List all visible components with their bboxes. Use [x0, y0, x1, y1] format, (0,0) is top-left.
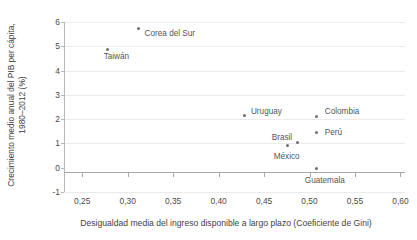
x-tick-mark [82, 173, 83, 177]
y-tick-label: 4 [44, 66, 60, 76]
x-tick-label: 0,30 [108, 196, 148, 206]
data-point-label: México [274, 152, 300, 161]
gridline-y [64, 22, 405, 23]
gridline-y [64, 95, 405, 96]
x-tick-mark [310, 173, 311, 177]
y-tick-mark [61, 143, 64, 144]
y-tick-label: 1 [44, 138, 60, 148]
data-point[interactable] [106, 48, 109, 51]
data-point[interactable] [315, 167, 318, 170]
x-tick-label: 0,60 [380, 196, 417, 206]
x-tick-label: 0,45 [244, 196, 284, 206]
x-tick-label: 0,40 [199, 196, 239, 206]
data-point[interactable] [296, 141, 299, 144]
data-point[interactable] [315, 115, 318, 118]
x-tick-mark [355, 173, 356, 177]
x-tick-label: 0,35 [153, 196, 193, 206]
y-tick-mark [61, 192, 64, 193]
data-point-label: Uruguay [251, 107, 282, 116]
x-tick-label: 0,50 [290, 196, 330, 206]
gridline-y [64, 71, 405, 72]
y-tick-mark [61, 46, 64, 47]
x-tick-mark [128, 173, 129, 177]
data-point-label: Corea del Sur [145, 29, 196, 38]
data-point-label: Perú [325, 128, 342, 137]
x-axis-line [64, 172, 405, 173]
scatter-chart: Crecimiento medio anual del PIB per cápi… [0, 0, 417, 240]
x-tick-mark [264, 173, 265, 177]
x-tick-mark [173, 173, 174, 177]
gridline-y [64, 119, 405, 120]
data-point-label: Brasil [272, 133, 292, 142]
data-point[interactable] [286, 144, 289, 147]
gridline-y [64, 46, 405, 47]
data-point[interactable] [137, 27, 140, 30]
data-point-label: Guatemala [305, 176, 345, 185]
data-point[interactable] [243, 114, 246, 117]
y-axis-line [64, 22, 65, 192]
y-tick-label: 6 [44, 17, 60, 27]
y-tick-mark [61, 119, 64, 120]
gridline-y [64, 192, 405, 193]
y-tick-label: 3 [44, 90, 60, 100]
y-tick-mark [61, 95, 64, 96]
y-tick-mark [61, 22, 64, 23]
y-axis-tick-labels: -10123456 [42, 22, 60, 192]
x-axis-title: Desigualdad media del ingreso disponible… [40, 218, 412, 228]
data-point-label: Taiwán [104, 52, 130, 61]
gridline-y [64, 143, 405, 144]
x-tick-label: 0,55 [335, 196, 375, 206]
y-tick-mark [61, 71, 64, 72]
y-tick-label: 0 [44, 163, 60, 173]
data-point-label: Colombia [325, 107, 360, 116]
data-point[interactable] [315, 131, 318, 134]
x-tick-label: 0,25 [62, 196, 102, 206]
plot-area: Corea del SurTaiwánUruguayColombiaPerúBr… [64, 22, 405, 192]
y-tick-label: 5 [44, 41, 60, 51]
x-tick-mark [400, 173, 401, 177]
y-axis-title-line-2: 1980–2012 (%) [17, 23, 28, 186]
y-tick-mark [61, 168, 64, 169]
x-axis-tick-labels: 0,250,300,350,400,450,500,550,60 [64, 196, 405, 210]
y-tick-label: -1 [44, 187, 60, 197]
y-axis-title: Crecimiento medio anual del PIB per cápi… [0, 0, 34, 210]
y-axis-title-line-1: Crecimiento medio anual del PIB per cápi… [6, 23, 17, 186]
x-tick-mark [219, 173, 220, 177]
y-tick-label: 2 [44, 114, 60, 124]
